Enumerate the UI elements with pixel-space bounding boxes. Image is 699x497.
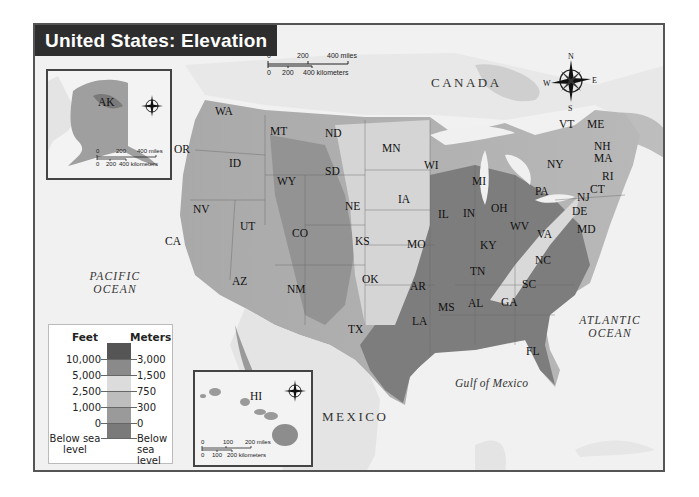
state-label-ne: NE — [345, 200, 360, 212]
state-label-nc: NC — [535, 254, 551, 266]
state-label-ri: RI — [602, 170, 614, 182]
svg-text:W: W — [543, 79, 551, 88]
state-label-or: OR — [174, 143, 190, 155]
legend-meters-value: 750 — [137, 386, 156, 397]
legend-tick — [101, 391, 137, 392]
hawaii-compass-icon — [283, 378, 307, 404]
state-label-de: DE — [572, 205, 587, 217]
state-label-va: VA — [537, 228, 552, 240]
legend-meters-value: 0 — [137, 418, 143, 429]
legend-tick — [101, 407, 137, 408]
state-label-wy: WY — [277, 175, 296, 187]
alaska-inset: AK 0 200 400 miles 0 200 400 kilometers — [46, 69, 172, 180]
state-label-wa: WA — [215, 105, 233, 117]
legend-meters-value: 300 — [137, 402, 156, 413]
state-label-fl: FL — [526, 345, 539, 357]
state-label-tn: TN — [470, 265, 485, 277]
state-label-ks: KS — [355, 235, 370, 247]
state-label-ak: AK — [98, 96, 115, 108]
state-label-in: IN — [463, 207, 475, 219]
legend-meters-header: Meters — [130, 331, 171, 343]
legend-feet-value: 2,500 — [51, 386, 101, 397]
hawaii-inset: HI 0 100 200 miles 0 100 200 kilometers — [193, 370, 313, 467]
main-scale-bar: 0 200 400 miles 0 200 400 kilometers — [267, 52, 407, 78]
state-label-nv: NV — [193, 203, 210, 215]
svg-text:S: S — [568, 104, 572, 112]
state-label-sd: SD — [325, 165, 340, 177]
state-label-ms: MS — [438, 301, 455, 313]
state-label-ct: CT — [590, 183, 605, 195]
map-title: United States: Elevation — [35, 25, 277, 56]
state-label-ok: OK — [362, 273, 379, 285]
state-label-nj: NJ — [577, 191, 590, 203]
state-label-az: AZ — [232, 275, 247, 287]
alaska-compass-icon — [140, 93, 164, 119]
legend-tick — [101, 423, 137, 424]
state-label-ma: MA — [594, 152, 613, 164]
elevation-legend: Feet Meters 10,0003,0005,0001,5002,50075… — [48, 324, 173, 464]
state-label-id: ID — [229, 157, 241, 169]
state-label-ar: AR — [410, 280, 426, 292]
state-label-ut: UT — [240, 220, 255, 232]
label-canada: CANADA — [431, 75, 502, 91]
state-label-mn: MN — [382, 142, 401, 154]
legend-feet-value: 0 — [51, 418, 101, 429]
state-label-pa: PA — [535, 185, 549, 197]
state-label-al: AL — [468, 297, 483, 309]
state-label-ky: KY — [480, 239, 497, 251]
legend-feet-value: 10,000 — [51, 354, 101, 365]
state-label-ia: IA — [398, 193, 410, 205]
legend-feet-header: Feet — [72, 331, 98, 343]
legend-tick — [101, 375, 137, 376]
state-label-la: LA — [412, 315, 427, 327]
state-label-wv: WV — [510, 220, 529, 232]
state-label-co: CO — [292, 227, 308, 239]
state-label-ca: CA — [165, 235, 181, 247]
state-label-nm: NM — [287, 283, 306, 295]
state-label-mi: MI — [472, 175, 486, 187]
legend-meters-value: 3,000 — [137, 354, 166, 365]
state-label-il: IL — [438, 208, 449, 220]
compass-rose-icon: N S E W — [543, 50, 599, 112]
state-label-hi: HI — [250, 390, 262, 402]
legend-feet-value: 1,000 — [51, 402, 101, 413]
legend-feet-below-sea-level: Below sea level — [49, 433, 101, 455]
state-label-wi: WI — [424, 159, 439, 171]
state-label-ny: NY — [547, 158, 564, 170]
state-label-tx: TX — [348, 323, 363, 335]
label-pacific-ocean: PACIFIC OCEAN — [80, 270, 150, 296]
state-label-me: ME — [587, 118, 604, 130]
state-label-oh: OH — [491, 202, 508, 214]
legend-tick — [101, 438, 137, 439]
label-gulf-of-mexico: Gulf of Mexico — [455, 377, 528, 390]
label-atlantic-ocean: ATLANTIC OCEAN — [570, 314, 650, 340]
state-label-nh: NH — [594, 140, 611, 152]
state-label-mt: MT — [270, 125, 287, 137]
legend-tick — [101, 359, 137, 360]
svg-text:N: N — [568, 52, 574, 61]
state-label-nd: ND — [325, 127, 342, 139]
hawaii-scale-bar: 0 100 200 miles 0 100 200 kilometers — [201, 439, 281, 459]
state-label-vt: VT — [559, 118, 574, 130]
legend-meters-value: 1,500 — [137, 370, 166, 381]
label-mexico: MEXICO — [322, 409, 388, 425]
state-label-md: MD — [577, 223, 596, 235]
map-frame: United States: Elevation — [33, 23, 665, 472]
alaska-scale-bar: 0 200 400 miles 0 200 400 kilometers — [96, 148, 172, 168]
svg-text:E: E — [592, 76, 597, 85]
legend-meters-below-sea-level: Below sea level — [137, 433, 177, 466]
state-label-ga: GA — [501, 296, 518, 308]
legend-feet-value: 5,000 — [51, 370, 101, 381]
state-label-sc: SC — [522, 278, 536, 290]
state-label-mo: MO — [407, 238, 426, 250]
